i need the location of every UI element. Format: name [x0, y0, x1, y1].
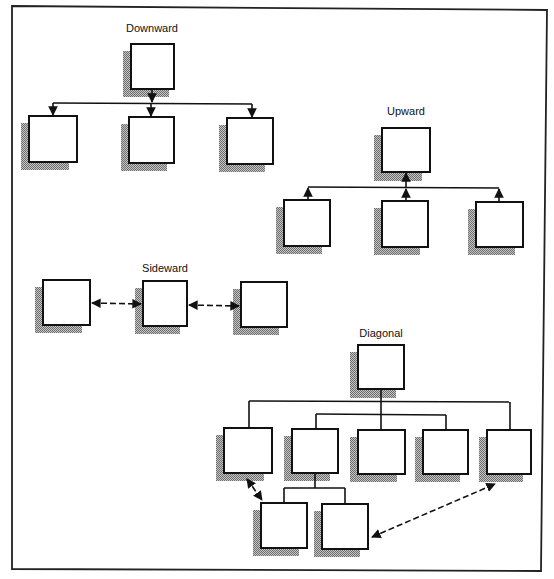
edge-diagonal-cross-left — [247, 479, 262, 500]
node-diagonal-level2-5 — [479, 430, 531, 482]
node-box — [224, 428, 272, 473]
panel-downward: Downward — [21, 22, 273, 172]
node-sideward-left — [35, 280, 90, 333]
node-box — [143, 281, 187, 326]
node-box — [241, 282, 287, 327]
node-downward-child-3 — [219, 118, 273, 172]
node-diagonal-level2-2 — [284, 429, 338, 481]
node-upward-child-1 — [276, 200, 330, 254]
node-box — [227, 118, 273, 164]
node-box — [487, 430, 531, 474]
node-upward-top — [374, 128, 430, 181]
node-sideward-right — [233, 282, 287, 335]
node-box — [261, 503, 307, 548]
panel-title-downward: Downward — [126, 22, 178, 34]
node-box — [382, 201, 428, 247]
node-upward-child-2 — [374, 201, 428, 255]
node-downward-child-1 — [21, 116, 77, 170]
panel-upward: Upward — [276, 105, 523, 255]
edge-diagonal-inner-bar — [316, 414, 446, 415]
panel-diagonal: Diagonal — [216, 327, 531, 557]
edge-sideward-left-middle — [92, 303, 141, 304]
node-box — [284, 200, 330, 246]
panel-sideward: Sideward — [35, 262, 287, 335]
node-box — [358, 345, 404, 389]
node-box — [423, 430, 468, 474]
edge-diagonal-outer-bar — [249, 401, 510, 402]
node-box — [29, 116, 77, 162]
edge-diagonal-cross-right — [372, 484, 495, 537]
panel-title-diagonal: Diagonal — [359, 327, 402, 339]
node-box — [358, 430, 405, 474]
node-diagonal-level3-1 — [253, 503, 307, 556]
node-diagonal-level2-3 — [350, 430, 405, 482]
node-box — [43, 280, 90, 325]
panel-title-upward: Upward — [387, 105, 425, 117]
diagram-canvas: Downward Upward — [0, 0, 554, 579]
node-sideward-middle — [135, 281, 187, 334]
node-box — [382, 128, 430, 172]
node-box — [292, 429, 338, 473]
node-diagonal-level2-1 — [216, 428, 272, 481]
node-downward-child-2 — [121, 117, 174, 171]
node-downward-top — [123, 44, 174, 97]
node-box — [476, 202, 523, 247]
panel-title-sideward: Sideward — [142, 262, 188, 274]
node-diagonal-top — [350, 345, 404, 398]
edges-downward — [53, 89, 252, 117]
edge-downward-bar — [53, 103, 252, 104]
node-upward-child-3 — [468, 202, 523, 255]
node-box — [322, 504, 368, 549]
edge-upward-bar — [308, 187, 499, 188]
edge-sideward-middle-right — [189, 305, 239, 306]
node-diagonal-level3-2 — [314, 504, 368, 557]
node-box — [131, 44, 174, 89]
node-box — [129, 117, 174, 163]
node-diagonal-level2-4 — [415, 430, 468, 482]
